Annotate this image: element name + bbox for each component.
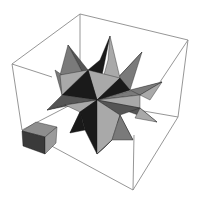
polyhedron-figure (0, 0, 201, 203)
figure-canvas: Small stellated dodecahedron in bounding… (0, 0, 201, 203)
stellated-polyhedron (47, 36, 162, 154)
